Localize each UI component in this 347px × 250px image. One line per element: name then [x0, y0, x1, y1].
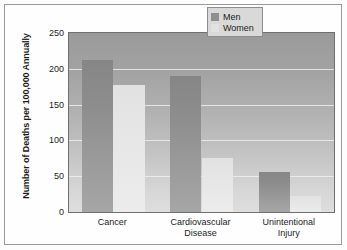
- bar-women-1: [202, 158, 233, 212]
- bar-men-1: [170, 76, 201, 212]
- y-axis-title: Number of Deaths per 100,000 Annually: [21, 21, 31, 211]
- y-tick-label-150: 150: [40, 100, 64, 110]
- x-axis-tick-labels: CancerCardiovascularDiseaseUnintentional…: [68, 217, 335, 250]
- legend-label: Women: [223, 23, 254, 33]
- chart-legend: MenWomen: [207, 7, 263, 37]
- x-tick-label-1: CardiovascularDisease: [156, 217, 244, 239]
- bar-men-0: [82, 60, 113, 212]
- x-tick-label-2: UnintentionalInjury: [245, 217, 333, 239]
- y-axis-tick-labels: 050100150200250: [38, 32, 64, 213]
- x-tick-label-line: Cancer: [68, 217, 156, 228]
- x-tick-label-line: Disease: [156, 228, 244, 239]
- y-tick-label-50: 50: [40, 171, 64, 181]
- y-tick-label-250: 250: [40, 28, 64, 38]
- bar-men-2: [259, 172, 290, 212]
- chart-figure: Number of Deaths per 100,000 Annually 05…: [0, 0, 347, 250]
- x-tick-label-0: Cancer: [68, 217, 156, 228]
- x-tick-label-line: Injury: [245, 228, 333, 239]
- x-tick-label-line: Cardiovascular: [156, 217, 244, 228]
- y-tick-label-0: 0: [40, 207, 64, 217]
- x-tick-label-line: Unintentional: [245, 217, 333, 228]
- legend-item-women: Women: [211, 22, 258, 33]
- y-tick-label-100: 100: [40, 135, 64, 145]
- bar-women-2: [290, 196, 321, 213]
- y-tick-label-200: 200: [40, 64, 64, 74]
- bar-women-0: [113, 85, 144, 212]
- legend-swatch-women-icon: [211, 24, 219, 32]
- legend-swatch-men-icon: [211, 13, 219, 21]
- legend-label: Men: [223, 12, 241, 22]
- plot-area: [68, 32, 335, 213]
- legend-item-men: Men: [211, 11, 258, 22]
- figure-frame: Number of Deaths per 100,000 Annually 05…: [4, 4, 342, 245]
